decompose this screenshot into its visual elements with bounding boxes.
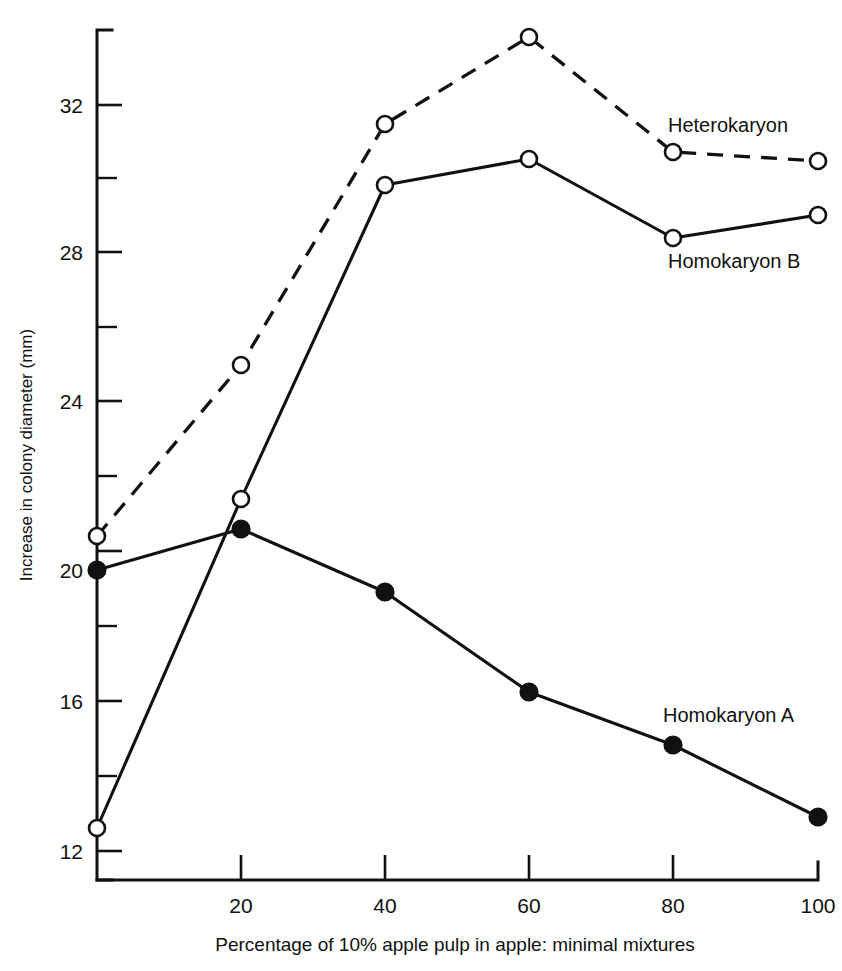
y-tick-label-28: 28 [60,241,83,264]
homokaryon-a-line [97,529,818,817]
x-tick-label-20: 20 [229,894,252,917]
y-tick-label-16: 16 [60,690,83,713]
x-axis-line [97,862,818,880]
heterokaryon-line [97,37,818,536]
y-tick-label-24: 24 [60,390,84,413]
heterokaryon-point-80 [665,144,681,160]
homokaryon-b-point-40 [377,177,393,193]
y-axis-tick-labels: 32 28 24 20 16 12 [60,94,84,863]
chart-container: 32 28 24 20 16 12 20 40 60 80 100 [0,0,842,971]
y-axis-line [97,30,112,880]
homokaryon-a-point-60 [521,684,538,701]
heterokaryon-point-20 [233,357,249,373]
x-tick-label-40: 40 [373,894,396,917]
homokaryon-a-point-80 [665,737,682,754]
x-axis-tick-labels: 20 40 60 80 100 [229,894,835,917]
series-homokaryon-a [89,521,827,826]
y-tick-label-32: 32 [60,94,83,117]
x-tick-label-100: 100 [800,894,835,917]
homokaryon-b-point-0 [89,820,105,836]
line-chart: 32 28 24 20 16 12 20 40 60 80 100 [0,0,842,971]
heterokaryon-point-100 [810,153,826,169]
homokaryon-b-point-100 [810,207,826,223]
axes-group [97,30,818,880]
y-tick-label-20: 20 [60,559,83,582]
y-tick-label-12: 12 [60,840,83,863]
homokaryon-a-point-100 [810,809,827,826]
heterokaryon-point-0 [89,528,105,544]
series-annotations: Heterokaryon Homokaryon B Homokaryon A [663,114,800,726]
heterokaryon-point-60 [521,29,537,45]
annotation-homokaryon-b: Homokaryon B [668,250,800,272]
homokaryon-b-point-60 [521,151,537,167]
homokaryon-b-point-20 [233,491,249,507]
homokaryon-b-point-80 [665,230,681,246]
x-tick-label-80: 80 [661,894,684,917]
homokaryon-a-point-40 [377,584,394,601]
series-heterokaryon [89,29,826,544]
homokaryon-a-point-0 [89,562,106,579]
x-axis-ticks [241,855,673,880]
homokaryon-a-point-20 [233,521,250,538]
annotation-homokaryon-a: Homokaryon A [663,704,795,726]
y-axis-ticks [97,105,122,851]
heterokaryon-point-40 [377,116,393,132]
annotation-heterokaryon: Heterokaryon [668,114,788,136]
y-axis-title: Increase in colony diameter (mm) [17,329,36,581]
x-axis-title: Percentage of 10% apple pulp in apple: m… [215,934,695,955]
x-tick-label-60: 60 [517,894,540,917]
